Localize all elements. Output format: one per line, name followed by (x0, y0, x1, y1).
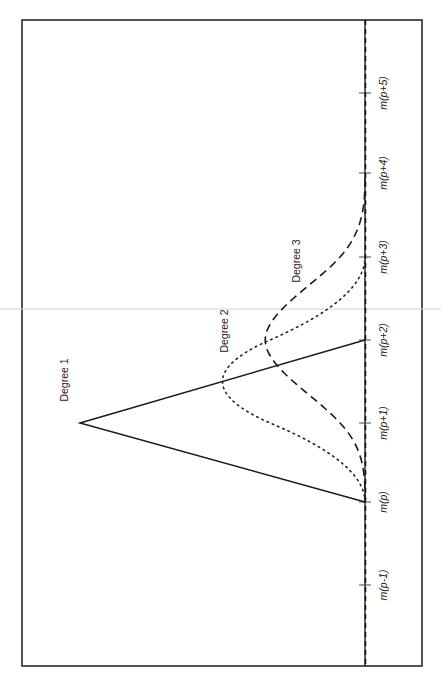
tick-label: m(p-1) (377, 570, 389, 601)
tick-label: m(p+2) (377, 323, 389, 357)
curve-degree-1 (80, 340, 365, 502)
curve-degree-2 (223, 257, 366, 502)
tick-label: m(p+5) (377, 76, 389, 110)
label-degree-1: Degree 1 (58, 358, 70, 401)
bspline-basis-chart: m(p-1)m(p)m(p+1)m(p+2)m(p+3)m(p+4)m(p+5)… (0, 0, 441, 681)
label-degree-2: Degree 2 (218, 309, 230, 352)
tick-label: m(p+1) (377, 406, 389, 440)
label-degree-3: Degree 3 (290, 239, 302, 282)
x-axis-tick-labels: m(p-1)m(p)m(p+1)m(p+2)m(p+3)m(p+4)m(p+5) (377, 76, 389, 600)
tick-label: m(p+4) (377, 156, 389, 190)
tick-label: m(p+3) (377, 240, 389, 274)
tick-label: m(p) (377, 491, 389, 513)
curve-degree-3 (265, 173, 365, 502)
